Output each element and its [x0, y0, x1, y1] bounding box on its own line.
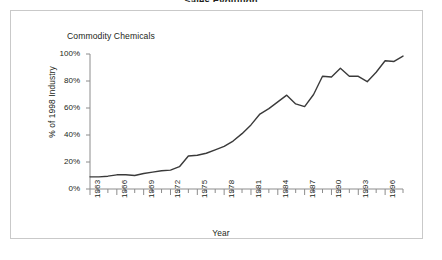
page-title: Sales Evolution	[0, 0, 442, 2]
chart-frame: Commodity Chemicals % of 1998 Industry 1…	[10, 10, 423, 239]
x-tick-label: 1978	[227, 180, 236, 198]
chart-panel-title: Commodity Chemicals	[67, 31, 155, 41]
x-tick-label: 1987	[308, 180, 317, 198]
data-line-commodity-chemicals	[90, 56, 403, 177]
x-tick-label: 1963	[93, 180, 102, 198]
x-tick-label: 1972	[173, 180, 182, 198]
y-axis-label: % of 1998 Industry	[47, 47, 57, 157]
x-tick-label: 1984	[281, 180, 290, 198]
x-axis-ticks	[90, 189, 403, 195]
y-tick-label: 80%	[50, 76, 80, 85]
x-tick-label: 1981	[254, 180, 263, 198]
figure: Sales Evolution Commodity Chemicals % of…	[0, 0, 442, 260]
x-tick-label: 1996	[388, 180, 397, 198]
x-tick-label: 1990	[334, 180, 343, 198]
y-tick-label: 60%	[50, 103, 80, 112]
y-tick-label: 20%	[50, 157, 80, 166]
y-axis-ticks	[86, 54, 90, 189]
y-tick-label: 40%	[50, 130, 80, 139]
x-tick-label: 1993	[361, 180, 370, 198]
line-chart-plot	[11, 11, 424, 240]
x-tick-label: 1966	[120, 180, 129, 198]
x-tick-label: 1969	[147, 180, 156, 198]
y-tick-label: 100%	[50, 49, 80, 58]
y-tick-label: 0%	[50, 184, 80, 193]
axes	[86, 54, 403, 195]
data-series-group	[90, 56, 403, 177]
x-axis-label: Year	[0, 228, 442, 238]
x-tick-label: 1975	[200, 180, 209, 198]
